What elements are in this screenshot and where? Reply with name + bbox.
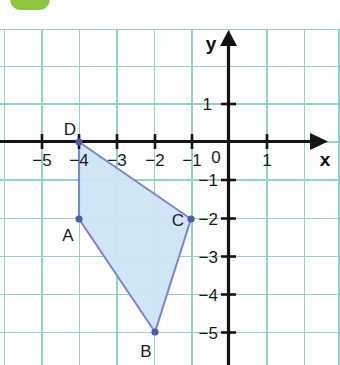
vertex-label-b: B [140, 342, 151, 361]
vertex-point-d [75, 138, 82, 145]
x-tick-label-minus5: −5 [32, 151, 51, 170]
figure-canvas: −5 −4 −3 −2 −1 1 0 1 −1 −2 −3 −4 −5 x y … [0, 0, 340, 365]
grid-vertical-lines [5, 29, 340, 365]
vertex-label-c: C [172, 211, 184, 230]
x-axis-arrow-icon [310, 133, 328, 150]
x-tick-label-minus1: −1 [182, 151, 201, 170]
x-axis [0, 133, 328, 150]
y-tick-label-1: 1 [203, 95, 212, 114]
x-tick-label-minus4: −4 [69, 151, 88, 170]
y-axis-label: y [206, 33, 217, 54]
y-tick-label-minus4: −4 [199, 286, 218, 305]
y-tick-label-minus2: −2 [199, 210, 218, 229]
vertex-point-c [187, 215, 194, 222]
origin-label: 0 [211, 148, 220, 167]
y-axis-arrow-icon [220, 30, 237, 46]
vertex-label-d: D [64, 120, 76, 139]
vertex-point-a [75, 215, 82, 222]
y-tick-label-minus5: −5 [199, 324, 218, 343]
vertex-point-b [151, 328, 158, 335]
x-tick-label-minus3: −3 [107, 151, 126, 170]
x-tick-label-1: 1 [262, 151, 271, 170]
x-axis-label: x [320, 149, 331, 170]
y-tick-label-minus1: −1 [199, 171, 218, 190]
y-tick-label-minus3: −3 [199, 248, 218, 267]
y-axis [220, 30, 237, 365]
x-tick-label-minus2: −2 [145, 151, 164, 170]
vertex-label-a: A [62, 226, 74, 245]
coordinate-plane-svg: −5 −4 −3 −2 −1 1 0 1 −1 −2 −3 −4 −5 x y … [0, 0, 340, 365]
polygon-abcd [79, 142, 191, 332]
